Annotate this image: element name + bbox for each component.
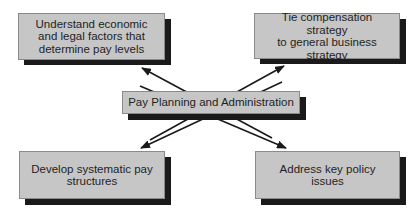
diagram-canvas: Understand economic and legal factors th… xyxy=(0,0,420,212)
node-box: Pay Planning and Administration xyxy=(122,91,300,114)
node-label: Address key policy issues xyxy=(280,163,376,188)
node-bottom-left: Develop systematic pay structures xyxy=(19,151,171,205)
node-label: Tie compensation strategy to general bus… xyxy=(261,11,393,61)
node-box: Understand economic and legal factors th… xyxy=(18,13,165,60)
node-box: Address key policy issues xyxy=(255,151,400,199)
node-label: Understand economic and legal factors th… xyxy=(36,18,148,56)
node-label: Pay Planning and Administration xyxy=(128,96,294,109)
node-top-left: Understand economic and legal factors th… xyxy=(18,13,171,65)
node-label: Develop systematic pay structures xyxy=(31,163,152,188)
node-bottom-right: Address key policy issues xyxy=(255,151,406,205)
node-box: Tie compensation strategy to general bus… xyxy=(254,13,400,59)
node-top-right: Tie compensation strategy to general bus… xyxy=(254,13,406,64)
node-box: Develop systematic pay structures xyxy=(19,151,165,199)
node-center: Pay Planning and Administration xyxy=(122,91,306,120)
